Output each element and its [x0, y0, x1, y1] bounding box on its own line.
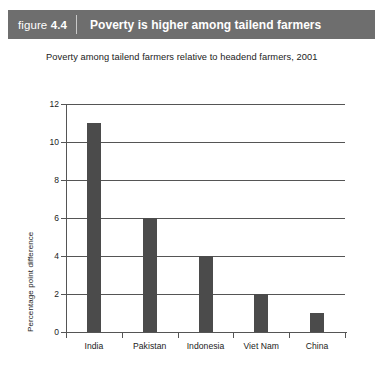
bar: [310, 313, 324, 332]
y-tick-label: 8: [37, 176, 59, 185]
x-tick-label: Viet Nam: [233, 341, 289, 351]
y-tick-label: 0: [37, 328, 59, 337]
y-tick-label: 4: [37, 252, 59, 261]
x-tick-label: China: [289, 341, 345, 351]
x-tick-mark: [289, 333, 290, 338]
x-axis-line: [66, 332, 347, 333]
x-tick-label: Indonesia: [178, 341, 234, 351]
x-axis-end-cap: [345, 333, 346, 338]
bar-chart: Percentage point difference 024681012 In…: [0, 0, 383, 379]
bar: [87, 123, 101, 332]
x-tick-label: India: [66, 341, 122, 351]
gridline: [66, 180, 345, 181]
y-axis-tick-labels: 024681012: [33, 0, 59, 379]
y-tick-label: 12: [37, 100, 59, 109]
x-tick-mark: [233, 333, 234, 338]
bar: [254, 294, 268, 332]
x-axis-end-cap: [66, 333, 67, 338]
x-tick-mark: [178, 333, 179, 338]
gridline: [66, 104, 345, 105]
plot-area: [66, 104, 345, 332]
y-axis-line: [66, 104, 67, 333]
x-tick-label: Pakistan: [122, 341, 178, 351]
x-tick-mark: [122, 333, 123, 338]
gridline: [66, 142, 345, 143]
y-tick-label: 2: [37, 290, 59, 299]
gridline: [66, 218, 345, 219]
bar: [143, 218, 157, 332]
y-tick-label: 6: [37, 214, 59, 223]
bar: [199, 256, 213, 332]
y-tick-label: 10: [37, 138, 59, 147]
